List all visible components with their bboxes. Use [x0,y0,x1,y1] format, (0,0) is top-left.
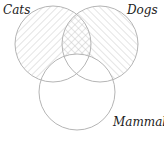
mammals-label: Mammals [113,116,164,128]
dogs-label: Dogs [127,4,158,16]
cats-label: Cats [3,4,30,16]
